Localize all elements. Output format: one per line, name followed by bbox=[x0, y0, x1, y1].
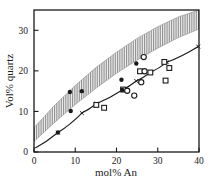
open-circle-point bbox=[142, 69, 147, 74]
filled-circle-point bbox=[80, 89, 84, 93]
scatter-plot: 010203040 0102030 mol% An Vol% quartz bbox=[0, 0, 210, 181]
open-square-point bbox=[163, 78, 168, 83]
x-axis-label: mol% An bbox=[95, 166, 137, 178]
x-tick-label: 10 bbox=[71, 156, 81, 166]
y-tick-label: 10 bbox=[19, 107, 29, 117]
open-square-point bbox=[148, 70, 153, 75]
x-tick-label: 0 bbox=[32, 156, 37, 166]
open-square-point bbox=[162, 60, 167, 65]
x-tick-label: 40 bbox=[194, 156, 204, 166]
open-circle-point bbox=[139, 80, 144, 85]
y-tick-label: 20 bbox=[19, 66, 29, 76]
open-circle-point bbox=[125, 88, 130, 93]
y-tick-label: 30 bbox=[19, 26, 29, 36]
x-cross-icon bbox=[80, 111, 84, 115]
filled-circle-point bbox=[68, 90, 72, 94]
filled-circle-point bbox=[56, 130, 60, 134]
filled-circle-point bbox=[120, 88, 124, 92]
filled-circle-point bbox=[119, 78, 123, 82]
open-circle-point bbox=[141, 54, 146, 59]
x-tick-label: 20 bbox=[112, 156, 122, 166]
open-square-point bbox=[102, 105, 107, 110]
hatched-band bbox=[34, 10, 199, 141]
open-square-point bbox=[94, 103, 99, 108]
y-tick-label: 0 bbox=[23, 147, 28, 157]
y-axis-label: Vol% quartz bbox=[3, 54, 15, 109]
chart-figure: 010203040 0102030 mol% An Vol% quartz bbox=[0, 0, 210, 181]
filled-circle-point bbox=[69, 109, 73, 113]
x-tick-label: 30 bbox=[153, 156, 163, 166]
open-circle-point bbox=[132, 93, 137, 98]
filled-circle-point bbox=[134, 61, 138, 65]
x-tick-labels: 010203040 bbox=[32, 156, 204, 166]
y-tick-labels: 0102030 bbox=[19, 26, 29, 158]
x-cross-icon bbox=[134, 79, 138, 83]
open-square-point bbox=[167, 66, 172, 71]
